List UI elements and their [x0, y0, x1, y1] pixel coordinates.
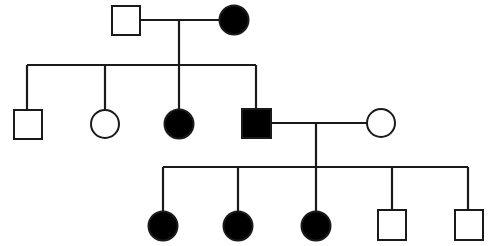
- female-affected-III-3: [302, 212, 331, 241]
- female-affected-III-1: [149, 212, 178, 241]
- male-unaffected-III-4: [378, 210, 406, 240]
- male-unaffected-I-1: [112, 6, 140, 35]
- male-unaffected-II-1: [14, 110, 42, 139]
- male-unaffected-III-5: [455, 210, 483, 240]
- female-affected-III-2: [224, 212, 253, 241]
- individuals: [14, 6, 483, 241]
- female-unaffected-II-2: [91, 110, 119, 138]
- pedigree-chart: [0, 0, 493, 246]
- female-unaffected-II-5: [367, 109, 395, 137]
- female-affected-I-2: [220, 6, 249, 35]
- male-affected-II-4: [242, 109, 271, 138]
- female-affected-II-3: [165, 110, 194, 139]
